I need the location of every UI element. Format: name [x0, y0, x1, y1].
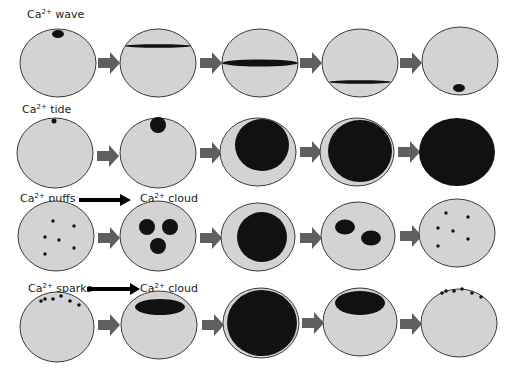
arrow-icon	[200, 142, 222, 164]
calcium-wavefront	[222, 60, 298, 67]
cell-tide-5	[419, 118, 495, 186]
calcium-cloud	[335, 291, 385, 315]
calcium-spread	[235, 119, 289, 171]
cell-sparks-4	[323, 288, 397, 356]
calcium-cloud	[227, 290, 297, 356]
row-label-wave: Ca2+ wave	[27, 8, 84, 21]
cell-puffs-4	[321, 202, 395, 270]
cell-tide-4	[320, 118, 394, 186]
calcium-filled-cell	[419, 118, 495, 186]
arrow-icon	[200, 227, 222, 249]
arrow-icon	[300, 141, 322, 163]
cell-tide-2	[120, 117, 196, 188]
cell-tide-1	[17, 118, 93, 188]
cell-sparks-2	[121, 291, 197, 359]
cell-wave-1	[20, 29, 96, 97]
cell-puffs-3	[221, 203, 295, 271]
arrow-icon	[300, 227, 322, 249]
row-puffs: Ca2+ puffs Ca2+ cloud	[18, 192, 495, 271]
cell-puffs-5	[419, 199, 495, 267]
cell-wave-3	[222, 29, 298, 97]
calcium-cloud	[237, 212, 287, 262]
arrow-icon	[97, 145, 119, 167]
arrow-icon	[400, 313, 422, 335]
arrow-icon	[300, 52, 322, 74]
row-sparks: Ca2+ sparks Ca2+ cloud	[20, 282, 497, 362]
arrow-icon	[200, 52, 222, 74]
arrow-icon	[302, 312, 324, 334]
calcium-wavefront	[329, 80, 391, 84]
transition-arrow-icon	[87, 283, 140, 295]
arrow-icon	[202, 314, 224, 336]
cell-puffs-1	[18, 201, 94, 271]
calcium-focus	[52, 30, 64, 38]
row-wave: Ca2+ wave	[20, 8, 498, 97]
cell-wave-5	[422, 27, 498, 95]
cell-sparks-3	[223, 288, 299, 358]
calcium-signaling-diagram: Ca2+ wave Ca2+ tide	[0, 0, 515, 376]
arrow-icon	[98, 52, 120, 74]
calcium-spread	[328, 120, 392, 182]
calcium-cloud	[135, 299, 185, 315]
cell-puffs-2	[120, 201, 196, 271]
cell-sparks-1	[20, 292, 94, 362]
calcium-wavefront	[125, 44, 191, 48]
transition-arrow-icon	[79, 194, 131, 206]
cell-tide-3	[220, 118, 296, 186]
calcium-focus	[52, 119, 57, 124]
cell-wave-2	[120, 29, 196, 97]
arrow-icon	[398, 141, 420, 163]
cell-sparks-5	[421, 287, 497, 357]
row-tide: Ca2+ tide	[17, 103, 495, 188]
arrow-icon	[98, 314, 120, 336]
calcium-spread	[150, 117, 166, 133]
arrow-icon	[400, 52, 422, 74]
calcium-focus	[453, 84, 465, 92]
arrow-icon	[98, 227, 120, 249]
cell-wave-4	[322, 29, 398, 97]
row-label-tide: Ca2+ tide	[22, 103, 72, 116]
